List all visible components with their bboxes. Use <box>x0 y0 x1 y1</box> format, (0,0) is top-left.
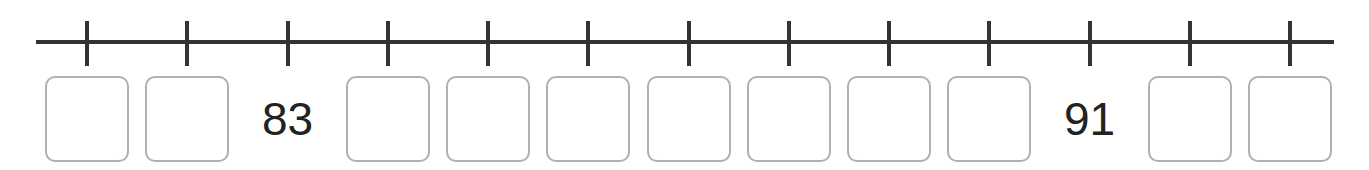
answer-box[interactable] <box>45 76 129 162</box>
answer-box[interactable] <box>546 76 630 162</box>
tick-mark <box>1088 21 1092 66</box>
given-value-label: 91 <box>1048 76 1132 162</box>
tick-mark <box>586 21 590 66</box>
answer-box[interactable] <box>145 76 229 162</box>
answer-box[interactable] <box>346 76 430 162</box>
answer-box[interactable] <box>647 76 731 162</box>
tick-mark <box>185 21 189 66</box>
tick-mark <box>486 21 490 66</box>
answer-box[interactable] <box>747 76 831 162</box>
answer-box[interactable] <box>1148 76 1232 162</box>
given-value-label: 83 <box>246 76 330 162</box>
tick-mark <box>386 21 390 66</box>
tick-mark <box>687 21 691 66</box>
number-line-axis <box>36 40 1334 44</box>
tick-mark <box>887 21 891 66</box>
tick-mark <box>987 21 991 66</box>
tick-mark <box>85 21 89 66</box>
answer-box[interactable] <box>847 76 931 162</box>
answer-box[interactable] <box>1248 76 1332 162</box>
answer-box[interactable] <box>947 76 1031 162</box>
tick-mark <box>787 21 791 66</box>
tick-mark <box>1188 21 1192 66</box>
answer-box[interactable] <box>446 76 530 162</box>
tick-mark <box>286 21 290 66</box>
tick-mark <box>1288 21 1292 66</box>
